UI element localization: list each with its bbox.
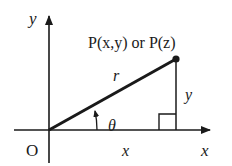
point-label: P(x,y) or P(z) <box>88 34 176 52</box>
origin-label: O <box>26 141 38 160</box>
angle-arc <box>95 111 97 130</box>
vertical-segment-label: y <box>183 86 193 104</box>
x-axis-label: x <box>200 141 209 160</box>
radius-label: r <box>113 67 120 84</box>
point-p <box>172 55 179 62</box>
polar-coordinate-diagram: y P(x,y) or P(z) r y θ O x x <box>0 0 232 166</box>
diagram-canvas: y P(x,y) or P(z) r y θ O x x <box>0 0 232 166</box>
angle-label: θ <box>108 117 116 134</box>
horizontal-segment-label: x <box>121 142 129 159</box>
right-angle-marker <box>159 114 176 130</box>
y-axis-label: y <box>27 9 37 28</box>
